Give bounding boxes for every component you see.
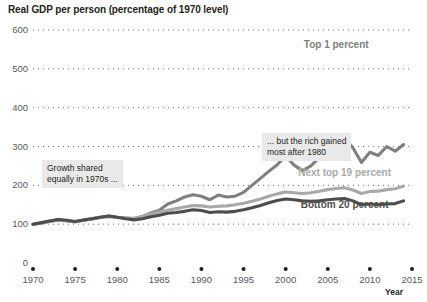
- x-axis-tick-dot: [368, 267, 372, 271]
- series-label-1: Next top 19 percent: [298, 167, 391, 178]
- annotation-line: Growth shared: [47, 163, 118, 174]
- y-axis-tick-300: 300: [2, 141, 28, 152]
- x-axis-tick-dot: [326, 267, 330, 271]
- x-axis-label: Year: [385, 287, 403, 297]
- x-axis-tick-1975: 1975: [55, 274, 95, 285]
- x-axis-tick-dot: [284, 267, 288, 271]
- annot-after-1980: ... but the rich gainedmost after 1980: [262, 133, 351, 161]
- x-axis-tick-dot: [242, 267, 246, 271]
- x-axis-tick-1995: 1995: [224, 274, 264, 285]
- x-axis-tick-1970: 1970: [13, 274, 53, 285]
- x-axis-tick-dot: [199, 267, 203, 271]
- series-label-0: Top 1 percent: [304, 39, 369, 50]
- x-axis-tick-1990: 1990: [181, 274, 221, 285]
- x-axis-tick-1985: 1985: [139, 274, 179, 285]
- x-axis-tick-2010: 2010: [350, 274, 390, 285]
- x-axis-tick-dot: [31, 267, 35, 271]
- y-axis-tick-400: 400: [2, 102, 28, 113]
- y-axis-tick-500: 500: [2, 63, 28, 74]
- x-axis-tick-dot: [115, 267, 119, 271]
- annotation-line: most after 1980: [267, 147, 346, 158]
- x-axis-tick-dot: [157, 267, 161, 271]
- y-axis-tick-0: 0: [2, 257, 28, 268]
- x-axis-tick-2015: 2015: [392, 274, 427, 285]
- annotation-line: equally in 1970s ...: [47, 174, 118, 185]
- annotation-line: ... but the rich gained: [267, 136, 346, 147]
- x-axis-tick-1980: 1980: [97, 274, 137, 285]
- y-axis-tick-600: 600: [2, 24, 28, 35]
- annot-1970s: Growth sharedequally in 1970s ...: [42, 160, 123, 188]
- y-axis-tick-200: 200: [2, 179, 28, 190]
- x-axis-tick-2000: 2000: [266, 274, 306, 285]
- x-axis-tick-dot: [73, 267, 77, 271]
- y-axis-tick-100: 100: [2, 218, 28, 229]
- series-label-2: Bottom 20 percent: [301, 199, 389, 210]
- x-axis-tick-2005: 2005: [308, 274, 348, 285]
- x-axis-tick-dot: [410, 267, 414, 271]
